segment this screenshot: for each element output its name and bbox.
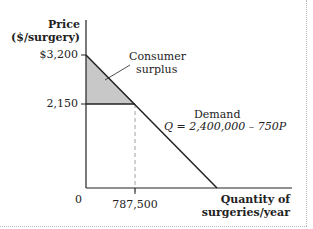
cs-leader-line	[105, 65, 130, 80]
cs-label-1: Consumer	[129, 50, 186, 63]
y-title-2: ($/surgery)	[0, 31, 80, 44]
x-tick-label: 787,500	[110, 198, 160, 211]
demand-equation: Q = 2,400,000 – 750P	[164, 120, 286, 133]
y-title-1: Price	[20, 18, 80, 31]
chart-frame: Price ($/surgery) $3,200 2,150 0 787,500…	[0, 0, 313, 229]
frame-border-right	[306, 0, 307, 226]
frame-border-bottom	[0, 226, 307, 227]
y-tick-label-mid: 2,150	[20, 97, 78, 110]
cs-label-2: surplus	[136, 63, 177, 76]
x-title-1: Quantity of	[210, 193, 290, 206]
y-tick-label-top: $3,200	[20, 48, 78, 61]
origin-label: 0	[75, 193, 82, 206]
x-title-2: surgeries/year	[200, 206, 290, 219]
